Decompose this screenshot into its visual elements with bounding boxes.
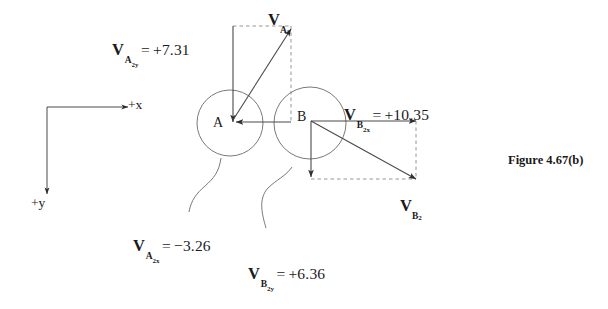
subscript-body: A: [146, 251, 153, 261]
vector-subscript: B2: [412, 211, 422, 221]
subscript-axis: x: [156, 257, 160, 265]
equals-sign: =: [159, 237, 174, 254]
resultant-label-a2: VA2: [268, 12, 290, 32]
vector-subscript: A2x: [146, 251, 160, 261]
leader-curve-to-a2x-label: [189, 158, 221, 212]
equals-sign: =: [369, 106, 384, 123]
figure-caption: Figure 4.67(b): [508, 154, 583, 167]
resultant-label-b2: VB2: [400, 198, 422, 218]
resultant-vector-a2: [233, 29, 291, 120]
component-value: +10.35: [384, 106, 429, 123]
axis-indicator: [47, 107, 128, 194]
axis-y-label: +y: [31, 196, 45, 210]
subscript-axis: y: [135, 61, 139, 69]
leader-curves: [189, 158, 292, 228]
leader-curve-to-b2y-label: [262, 167, 292, 228]
subscript-index: 2: [418, 214, 422, 222]
vector-symbol: V: [112, 40, 124, 59]
component-value: +7.31: [153, 41, 190, 58]
component-value: −3.26: [174, 237, 211, 254]
ball-circle-a: [197, 90, 263, 156]
subscript-axis: y: [270, 285, 274, 293]
vector-symbol: V: [344, 105, 356, 124]
axis-x-label: +x: [128, 98, 142, 112]
subscript-axis: x: [366, 126, 370, 134]
equals-sign: =: [138, 41, 153, 58]
vector-subscript: A2: [280, 25, 290, 35]
subscript-index: 2: [287, 28, 291, 36]
vector-group-a: [233, 26, 291, 122]
component-label-b2x: VB2x=+10.35: [344, 107, 429, 129]
vector-symbol: V: [133, 236, 145, 255]
figure-root: +x +y A B VA2y=+7.31 VA2x=−3.26 VB2x=+10…: [0, 0, 608, 309]
vector-subscript: B2y: [261, 279, 274, 289]
vector-symbol: V: [268, 10, 280, 29]
equals-sign: =: [273, 265, 288, 282]
vector-subscript: B2x: [357, 120, 370, 130]
ball-circle-b: [274, 87, 346, 159]
subscript-body: A: [280, 25, 287, 35]
vector-subscript: A2y: [125, 55, 139, 65]
ball-label-a: A: [213, 116, 223, 130]
component-label-a2x: VA2x=−3.26: [133, 238, 211, 260]
subscript-body: A: [125, 55, 132, 65]
component-label-a2y: VA2y=+7.31: [112, 42, 190, 64]
vector-symbol: V: [400, 196, 412, 215]
component-label-b2y: VB2y=+6.36: [248, 266, 325, 288]
vector-symbol: V: [248, 264, 260, 283]
ball-label-b: B: [297, 110, 306, 124]
component-value: +6.36: [288, 265, 325, 282]
